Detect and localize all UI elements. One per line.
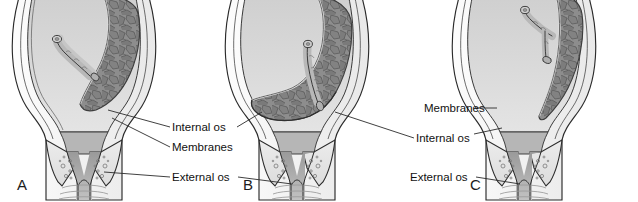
panel-letter-a: A [17, 176, 27, 193]
label-membranes-center: Membranes [172, 141, 233, 153]
label-external-os-right: External os [410, 171, 468, 183]
placenta-previa-figure: A [0, 0, 638, 202]
label-membranes-right: Membranes [424, 102, 485, 114]
lower-uterine-segment-b [273, 132, 321, 154]
label-external-os-center: External os [172, 171, 230, 183]
panel-letter-c: C [470, 176, 481, 193]
label-internal-os-center: Internal os [172, 121, 226, 133]
label-internal-os-right: Internal os [416, 132, 470, 144]
lower-uterine-segment-c [500, 132, 548, 154]
lower-uterine-segment-a [60, 132, 108, 154]
